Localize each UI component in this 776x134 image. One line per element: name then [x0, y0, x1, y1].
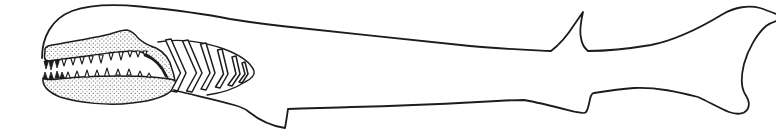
illustration-canvas: [0, 0, 776, 134]
fish-line-drawing-illustration: [0, 0, 776, 134]
lower-front-fangs: [43, 71, 65, 79]
upper-front-fangs: [44, 60, 60, 70]
lower-teeth: [66, 68, 151, 78]
lower-jaw: [43, 76, 176, 104]
gill-arch-4: [216, 49, 229, 88]
gill-arch-2: [183, 40, 203, 92]
gill-arch-3: [201, 43, 216, 90]
gill-arch-5: [228, 56, 240, 86]
belly-fins-caudal-outline: [174, 21, 776, 128]
